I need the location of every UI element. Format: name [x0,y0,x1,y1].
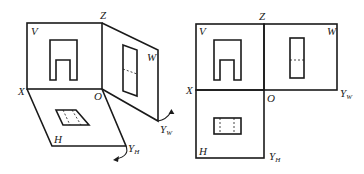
front-view-shape [50,40,77,80]
projection-diagram: V Z W X O H YH YW V Z W X O H YH YW [0,0,364,174]
arrow-head-icon [113,156,119,162]
label-yh: YH [269,150,281,164]
label-h: H [53,133,63,145]
v-plane [27,23,102,89]
label-h: H [198,145,208,157]
label-yw: YW [160,123,173,137]
top-view-shape [56,110,89,125]
label-o: O [267,92,275,104]
top-view-shape [214,118,241,134]
label-x: X [17,85,26,97]
hidden-line [123,69,137,74]
label-v: V [199,25,207,37]
label-yw: YW [340,87,353,101]
label-w: W [327,25,337,37]
label-w: W [147,51,157,63]
label-o: O [94,90,102,102]
front-view-shape [214,40,241,80]
right-figure: V Z W X O H YH YW [185,10,353,164]
label-z: Z [100,9,107,21]
label-v: V [31,25,39,37]
side-view-shape [123,45,137,96]
hidden-line [72,110,81,125]
label-x: X [185,84,194,96]
hidden-line [63,110,70,125]
label-yh: YH [128,142,140,156]
side-view-shape [290,38,304,78]
v-plane [196,24,264,90]
left-figure: V Z W X O H YH YW [17,9,174,162]
label-z: Z [259,10,266,22]
w-plane [102,23,158,121]
